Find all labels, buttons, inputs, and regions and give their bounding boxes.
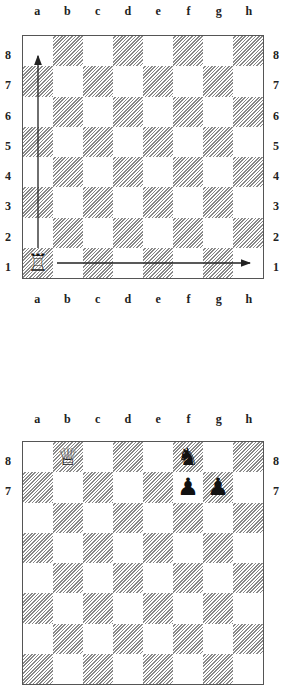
square-b7 xyxy=(53,66,83,96)
square-e8 xyxy=(143,442,173,472)
file-label: f xyxy=(173,292,203,307)
file-label: c xyxy=(83,412,113,427)
square-e1 xyxy=(143,248,173,278)
square-b1 xyxy=(53,654,83,684)
file-label: h xyxy=(234,4,264,19)
rank-label: 2 xyxy=(0,222,16,252)
square-d5 xyxy=(113,127,143,157)
square-g3 xyxy=(203,593,233,623)
square-d6 xyxy=(113,503,143,533)
square-f7 xyxy=(173,66,203,96)
square-c4 xyxy=(83,563,113,593)
square-h7 xyxy=(233,472,263,502)
rank-labels-right: 8 7 xyxy=(268,446,284,507)
square-h4 xyxy=(233,563,263,593)
square-d2 xyxy=(113,218,143,248)
square-e6 xyxy=(143,97,173,127)
black-pawn-icon: ♟ xyxy=(173,472,203,502)
square-d8 xyxy=(113,442,143,472)
rank-label: 2 xyxy=(268,222,284,252)
square-g2 xyxy=(203,624,233,654)
file-label: g xyxy=(204,412,234,427)
square-e2 xyxy=(143,624,173,654)
square-d1 xyxy=(113,248,143,278)
square-h6 xyxy=(233,503,263,533)
file-labels-bottom: a b c d e f g h xyxy=(22,292,264,307)
square-d4 xyxy=(113,563,143,593)
square-a7 xyxy=(23,472,53,502)
file-label: e xyxy=(143,292,173,307)
square-b7 xyxy=(53,472,83,502)
square-f2 xyxy=(173,218,203,248)
square-h6 xyxy=(233,97,263,127)
square-c3 xyxy=(83,187,113,217)
square-e4 xyxy=(143,157,173,187)
rank-labels-right: 8 7 6 5 4 3 2 1 xyxy=(268,40,284,282)
square-e7 xyxy=(143,472,173,502)
file-label: g xyxy=(204,4,234,19)
square-g4 xyxy=(203,563,233,593)
square-c1 xyxy=(83,248,113,278)
file-label: d xyxy=(113,4,143,19)
file-label: b xyxy=(52,4,82,19)
rank-label: 3 xyxy=(0,191,16,221)
square-a4 xyxy=(23,157,53,187)
square-b5 xyxy=(53,127,83,157)
square-h8 xyxy=(233,442,263,472)
file-label: c xyxy=(83,4,113,19)
file-label: f xyxy=(173,4,203,19)
square-d3 xyxy=(113,187,143,217)
file-label: d xyxy=(113,412,143,427)
rank-label: 7 xyxy=(268,70,284,100)
rank-label: 8 xyxy=(268,446,284,476)
square-a4 xyxy=(23,563,53,593)
square-g2 xyxy=(203,218,233,248)
square-g8 xyxy=(203,442,233,472)
square-b4 xyxy=(53,563,83,593)
chess-board: ♖ xyxy=(22,35,264,279)
square-c8 xyxy=(83,36,113,66)
file-label: g xyxy=(204,292,234,307)
rank-label: 7 xyxy=(268,476,284,506)
square-b8 xyxy=(53,36,83,66)
file-label: e xyxy=(143,412,173,427)
square-c6 xyxy=(83,503,113,533)
square-h3 xyxy=(233,593,263,623)
square-e3 xyxy=(143,187,173,217)
square-a2 xyxy=(23,624,53,654)
file-label: a xyxy=(22,412,52,427)
rank-label: 5 xyxy=(0,131,16,161)
rank-label: 8 xyxy=(268,40,284,70)
square-h5 xyxy=(233,127,263,157)
square-f2 xyxy=(173,624,203,654)
square-b2 xyxy=(53,218,83,248)
square-f1 xyxy=(173,248,203,278)
file-label: b xyxy=(52,292,82,307)
square-d1 xyxy=(113,654,143,684)
square-a1 xyxy=(23,654,53,684)
square-f1 xyxy=(173,654,203,684)
square-g5 xyxy=(203,127,233,157)
square-f4 xyxy=(173,563,203,593)
square-a3 xyxy=(23,187,53,217)
square-d4 xyxy=(113,157,143,187)
square-e5 xyxy=(143,127,173,157)
square-h3 xyxy=(233,187,263,217)
square-c5 xyxy=(83,127,113,157)
square-c2 xyxy=(83,624,113,654)
square-a3 xyxy=(23,593,53,623)
square-e6 xyxy=(143,503,173,533)
square-b3 xyxy=(53,593,83,623)
white-queen-icon: ♕ xyxy=(53,442,83,472)
square-e8 xyxy=(143,36,173,66)
chess-diagram-position: a b c d e f g h 8 7 8 7 ♕♞♟♟ xyxy=(0,400,284,492)
square-b5 xyxy=(53,533,83,563)
square-h7 xyxy=(233,66,263,96)
square-g1 xyxy=(203,654,233,684)
square-a1: ♖ xyxy=(23,248,53,278)
square-a6 xyxy=(23,503,53,533)
square-a5 xyxy=(23,533,53,563)
square-e5 xyxy=(143,533,173,563)
file-labels-top: a b c d e f g h xyxy=(22,412,264,427)
square-b4 xyxy=(53,157,83,187)
